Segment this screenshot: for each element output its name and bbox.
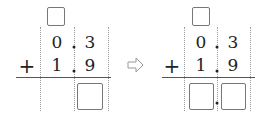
left-guide-line-1 (40, 27, 41, 111)
right-carry-input-box[interactable] (192, 7, 210, 26)
right-sum-line (162, 77, 255, 78)
right-row2-tenths-digit: 9 (225, 55, 241, 75)
left-sum-line (16, 77, 111, 78)
right-row1-tenths-digit: 3 (225, 32, 241, 52)
left-result-tenths-box[interactable] (77, 83, 103, 110)
right-row1-decimal-point (216, 46, 219, 49)
left-row2-decimal-point (73, 70, 76, 73)
right-row2-decimal-point (216, 70, 219, 73)
right-guide-line-3 (250, 27, 251, 111)
left-plus-operator: + (18, 56, 36, 76)
left-row1-tenths-digit: 3 (82, 32, 98, 52)
right-row1-ones-digit: 0 (193, 32, 209, 52)
right-plus-operator: + (163, 56, 181, 76)
left-row1-ones-digit: 0 (49, 32, 65, 52)
left-guide-line-3 (108, 27, 109, 111)
left-carry-input-box[interactable] (47, 7, 65, 26)
right-arrow-icon (127, 57, 144, 73)
right-result-decimal-point (216, 102, 219, 105)
right-guide-line-1 (184, 27, 185, 111)
right-row2-ones-digit: 1 (193, 55, 209, 75)
left-row2-tenths-digit: 9 (82, 55, 98, 75)
left-row1-decimal-point (73, 46, 76, 49)
left-row2-ones-digit: 1 (49, 55, 65, 75)
right-result-ones-box[interactable] (189, 83, 214, 110)
right-result-tenths-box[interactable] (221, 83, 246, 110)
